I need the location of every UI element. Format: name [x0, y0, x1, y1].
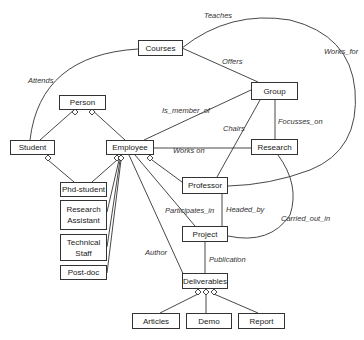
- rel-participates-in: Participates_in: [165, 206, 214, 215]
- isa-student-phd: [48, 160, 74, 182]
- entity-label: Research: [257, 142, 291, 153]
- entity-label: Staff: [75, 248, 91, 259]
- entity-project: Project: [182, 226, 228, 242]
- entity-research-assistant: Research Assistant: [60, 200, 107, 230]
- entity-label: Student: [19, 142, 47, 153]
- rel-carried-out-in: Carried_out_in: [281, 214, 330, 223]
- isa-person-student: [40, 110, 74, 140]
- entity-label: Research: [66, 204, 100, 215]
- isa-marker-icon: [45, 155, 51, 161]
- offers-connector: [182, 48, 258, 82]
- author-connector: [129, 155, 185, 278]
- entity-phd-student: Phd-student: [60, 182, 107, 197]
- entity-label: Person: [70, 97, 95, 108]
- rel-works-on: Works on: [173, 146, 205, 155]
- isa-employee-phd: [92, 160, 117, 182]
- rel-is-member-of: Is_member_of: [162, 106, 210, 115]
- entity-label: Professor: [188, 180, 222, 191]
- entity-demo: Demo: [186, 313, 232, 329]
- rel-focusses-on: Focusses_on: [278, 117, 323, 126]
- entity-label: Courses: [146, 43, 176, 54]
- entity-label: Technical: [67, 237, 100, 248]
- isa-marker-icon: [211, 289, 217, 295]
- isa-marker-icon: [203, 289, 209, 295]
- isa-deliv-report: [214, 294, 258, 313]
- entity-student: Student: [10, 140, 55, 155]
- entity-post-doc: Post-doc: [60, 265, 107, 280]
- entity-label: Demo: [198, 316, 219, 327]
- entity-label: Post-doc: [68, 267, 100, 278]
- entity-label: Group: [263, 86, 285, 97]
- isa-person-employee: [92, 110, 125, 140]
- rel-offers: Offers: [222, 57, 242, 66]
- entity-employee: Employee: [106, 140, 154, 155]
- entity-label: Assistant: [67, 215, 99, 226]
- rel-publication: Publication: [209, 255, 246, 264]
- entity-technical-staff: Technical Staff: [60, 234, 107, 261]
- entity-label: Phd-student: [62, 184, 105, 195]
- rel-works-for: Works_for: [324, 47, 358, 56]
- isa-employee-professor: [152, 160, 182, 182]
- entity-courses: Courses: [138, 40, 183, 56]
- entity-label: Articles: [143, 316, 169, 327]
- rel-headed-by: Headed_by: [226, 205, 264, 214]
- isa-marker-icon: [195, 289, 201, 295]
- entity-report: Report: [238, 313, 285, 329]
- isa-deliv-articles: [160, 294, 198, 313]
- teaches-works-for-arc: [182, 18, 355, 186]
- rel-teaches: Teaches: [204, 11, 232, 20]
- entity-deliverables: Deliverables: [182, 273, 228, 289]
- entity-professor: Professor: [182, 177, 228, 194]
- carried-out-in-connector: [228, 155, 293, 238]
- entity-label: Report: [249, 316, 273, 327]
- entity-articles: Articles: [132, 313, 180, 329]
- rel-attends: Attends: [28, 76, 53, 85]
- isa-employee-postdoc: [107, 160, 121, 273]
- rel-author: Author: [145, 248, 167, 257]
- entity-person: Person: [59, 95, 106, 110]
- entity-label: Employee: [112, 142, 148, 153]
- entity-label: Project: [193, 229, 218, 240]
- entity-label: Deliverables: [183, 276, 227, 287]
- entity-research: Research: [251, 139, 298, 155]
- entity-group: Group: [251, 82, 298, 100]
- rel-chairs: Chairs: [223, 124, 245, 133]
